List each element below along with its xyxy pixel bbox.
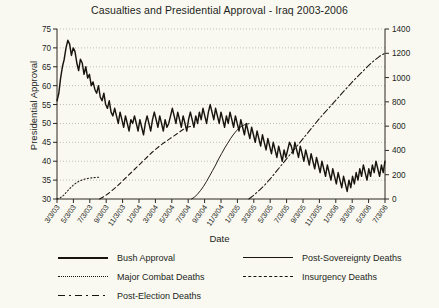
svg-text:1000: 1000 — [392, 74, 411, 83]
svg-text:800: 800 — [392, 98, 406, 107]
legend-item[interactable]: Post-Sovereignty Deaths — [243, 248, 402, 267]
legend-item-label: Post-Sovereignty Deaths — [302, 253, 402, 263]
svg-text:3/3/03: 3/3/03 — [42, 203, 61, 225]
legend-swatch-icon — [243, 272, 293, 282]
svg-text:3/3/04: 3/3/04 — [141, 203, 160, 225]
svg-text:11/3/05: 11/3/05 — [303, 203, 324, 228]
svg-text:3/3/05: 3/3/05 — [239, 203, 258, 225]
svg-text:3/3/06: 3/3/06 — [338, 203, 357, 225]
svg-text:0: 0 — [392, 195, 397, 204]
legend-item-label: Post-Election Deaths — [117, 291, 201, 301]
svg-text:1/3/06: 1/3/06 — [321, 203, 340, 225]
legend-item[interactable]: Major Combat Deaths — [58, 267, 205, 286]
svg-text:400: 400 — [392, 146, 406, 155]
legend-item[interactable]: Post-Election Deaths — [58, 286, 205, 305]
svg-text:1/3/04: 1/3/04 — [124, 203, 143, 225]
svg-text:5/3/03: 5/3/03 — [59, 203, 78, 225]
legend-item[interactable]: Bush Approval — [58, 248, 205, 267]
legend-swatch-icon — [58, 253, 108, 263]
svg-text:600: 600 — [392, 122, 406, 131]
svg-text:1/3/05: 1/3/05 — [223, 203, 242, 225]
svg-text:7/3/03: 7/3/03 — [75, 203, 94, 225]
svg-text:65: 65 — [42, 63, 52, 72]
svg-text:5/3/04: 5/3/04 — [157, 203, 176, 225]
svg-text:45: 45 — [42, 138, 52, 147]
svg-text:7/3/06: 7/3/06 — [370, 203, 389, 225]
svg-text:60: 60 — [42, 82, 52, 91]
svg-text:55: 55 — [42, 101, 52, 110]
chart-container: Casualties and Presidential Approval - I… — [0, 0, 439, 308]
svg-text:11/3/04: 11/3/04 — [204, 203, 225, 228]
legend-item-label: Insurgency Deaths — [302, 272, 377, 282]
chart-plot-area: 3035404550556065707502004006008001000120… — [0, 0, 439, 248]
chart-legend: Bush ApprovalMajor Combat DeathsPost-Ele… — [0, 248, 439, 306]
svg-text:200: 200 — [392, 171, 406, 180]
legend-item[interactable]: Insurgency Deaths — [243, 267, 402, 286]
svg-text:7/3/04: 7/3/04 — [174, 203, 193, 225]
svg-text:50: 50 — [42, 119, 52, 128]
legend-item-label: Bush Approval — [117, 253, 175, 263]
svg-text:30: 30 — [42, 195, 52, 204]
legend-item-label: Major Combat Deaths — [117, 272, 205, 282]
legend-column-2: Post-Sovereignty DeathsInsurgency Deaths — [243, 248, 402, 286]
legend-swatch-icon — [58, 291, 108, 301]
svg-text:7/3/05: 7/3/05 — [272, 203, 291, 225]
svg-text:1400: 1400 — [392, 25, 411, 34]
svg-text:70: 70 — [42, 44, 52, 53]
svg-text:5/3/05: 5/3/05 — [256, 203, 275, 225]
legend-swatch-icon — [243, 253, 293, 263]
legend-swatch-icon — [58, 272, 108, 282]
svg-text:75: 75 — [42, 25, 52, 34]
svg-text:11/3/03: 11/3/03 — [106, 203, 127, 228]
svg-text:5/3/06: 5/3/06 — [354, 203, 373, 225]
svg-text:1200: 1200 — [392, 49, 411, 58]
legend-column-1: Bush ApprovalMajor Combat DeathsPost-Ele… — [58, 248, 205, 305]
svg-text:35: 35 — [42, 176, 52, 185]
svg-text:40: 40 — [42, 157, 52, 166]
